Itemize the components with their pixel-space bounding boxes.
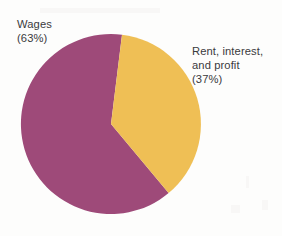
pie-label-wages: Wages (63%) bbox=[17, 17, 52, 45]
pie-label-rent-name-line1: Rent, interest, bbox=[192, 44, 263, 58]
pie-label-wages-percent: (63%) bbox=[17, 31, 52, 45]
pie-label-rent-name-line2: and profit bbox=[192, 58, 263, 72]
pie-label-rent-percent: (37%) bbox=[192, 72, 263, 86]
pie-chart-figure: Wages (63%) Rent, interest, and profit (… bbox=[0, 0, 282, 236]
pie-label-wages-name: Wages bbox=[17, 17, 52, 31]
pie-label-rent-interest-profit: Rent, interest, and profit (37%) bbox=[192, 44, 263, 87]
